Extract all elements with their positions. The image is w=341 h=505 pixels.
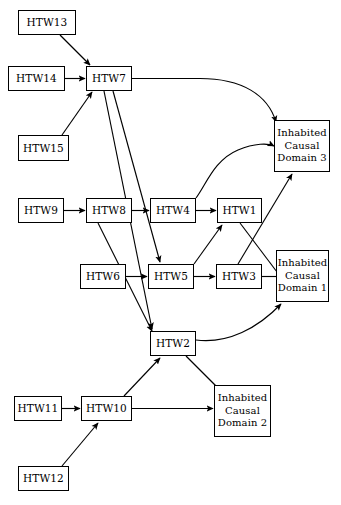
node-label: HTW3 [222, 270, 256, 282]
node-htw6[interactable]: HTW6 [80, 264, 126, 289]
node-label: HTW2 [156, 337, 190, 349]
node-inhabited-causal-domain-3[interactable]: Inhabited Causal Domain 3 [274, 120, 330, 172]
node-label-line1: Inhabited [277, 127, 327, 140]
node-label-line3: Domain 3 [277, 152, 326, 165]
node-htw13[interactable]: HTW13 [18, 10, 76, 35]
node-htw11[interactable]: HTW11 [14, 396, 62, 421]
node-label-line2: Causal [225, 405, 260, 418]
node-htw2[interactable]: HTW2 [150, 331, 196, 356]
causal-domain-diagram: HTW13 HTW14 HTW7 HTW15 Inhabited Causal … [0, 0, 341, 505]
node-label: HTW13 [27, 16, 68, 28]
node-label: HTW9 [24, 204, 58, 216]
node-htw12[interactable]: HTW12 [18, 466, 69, 491]
node-label-line2: Causal [285, 140, 320, 153]
node-htw5[interactable]: HTW5 [148, 264, 194, 289]
node-label: HTW1 [222, 204, 256, 216]
node-inhabited-causal-domain-2[interactable]: Inhabited Causal Domain 2 [214, 385, 271, 437]
node-htw8[interactable]: HTW8 [86, 198, 132, 223]
node-label-line3: Domain 1 [278, 282, 327, 295]
node-htw1[interactable]: HTW1 [217, 198, 262, 223]
node-label-line1: Inhabited [278, 257, 328, 270]
node-htw14[interactable]: HTW14 [8, 66, 65, 91]
node-label-line2: Causal [285, 270, 320, 283]
node-label: HTW4 [156, 204, 190, 216]
node-label: HTW11 [18, 402, 59, 414]
node-label-line3: Domain 2 [218, 417, 267, 430]
node-htw7[interactable]: HTW7 [86, 66, 132, 91]
node-label: HTW7 [92, 72, 126, 84]
node-label-line1: Inhabited [218, 392, 268, 405]
node-label: HTW5 [154, 270, 188, 282]
node-label: HTW8 [92, 204, 126, 216]
node-layer: HTW13 HTW14 HTW7 HTW15 Inhabited Causal … [0, 0, 341, 505]
node-htw9[interactable]: HTW9 [18, 198, 64, 223]
node-htw15[interactable]: HTW15 [18, 135, 69, 161]
node-htw4[interactable]: HTW4 [150, 198, 196, 223]
node-label: HTW12 [23, 472, 64, 484]
node-htw10[interactable]: HTW10 [81, 396, 132, 421]
node-label: HTW14 [16, 72, 57, 84]
node-inhabited-causal-domain-1[interactable]: Inhabited Causal Domain 1 [276, 250, 329, 302]
node-label: HTW15 [23, 142, 64, 154]
node-label: HTW10 [86, 402, 127, 414]
node-htw3[interactable]: HTW3 [216, 264, 262, 289]
node-label: HTW6 [86, 270, 120, 282]
